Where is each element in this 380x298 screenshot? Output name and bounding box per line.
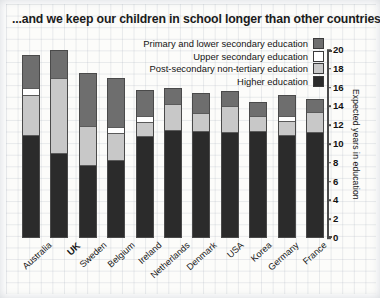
y-axis-tick: 8	[327, 158, 338, 168]
y-axis-tick-label: 0	[333, 233, 338, 243]
y-axis-tick-label: 18	[333, 64, 344, 74]
stacked-bar	[79, 73, 97, 238]
stacked-bar	[50, 50, 68, 238]
bar-segment	[51, 153, 67, 237]
x-axis-label-australia: Australia	[21, 240, 54, 271]
bar-segment	[137, 122, 153, 136]
y-axis-tick-mark	[327, 181, 331, 183]
bar-segment	[222, 92, 238, 106]
plot-area	[22, 50, 324, 238]
bar-segment	[250, 103, 266, 116]
y-axis-tick-mark	[327, 87, 331, 89]
stacked-bar	[22, 55, 40, 238]
y-axis-tick: 16	[327, 83, 344, 93]
bar-segment	[193, 131, 209, 237]
bar-column	[278, 50, 296, 238]
stacked-bar	[192, 93, 210, 238]
bar-segment	[108, 133, 124, 160]
bar-segment	[80, 165, 96, 237]
bar-segment	[165, 89, 181, 105]
bar-segment	[165, 130, 181, 237]
bar-segment	[193, 94, 209, 113]
y-axis-tick-label: 8	[333, 158, 338, 168]
y-axis-title-text: Expected years in education	[351, 89, 361, 200]
bar-column	[306, 50, 324, 238]
bar-segment	[23, 95, 39, 135]
y-axis-tick-label: 10	[333, 139, 344, 149]
stacked-bar	[306, 99, 324, 238]
bar-group	[22, 50, 324, 238]
bar-segment	[137, 136, 153, 237]
bar-segment	[108, 79, 124, 126]
stacked-bar	[164, 88, 182, 238]
legend-item-label: Primary and lower secondary education	[143, 39, 308, 48]
y-axis-tick-mark	[327, 200, 331, 202]
y-axis-tick: 2	[327, 214, 338, 224]
y-axis-tick-mark	[327, 218, 331, 220]
bar-segment	[51, 78, 67, 153]
bar-segment	[193, 113, 209, 132]
bar-segment	[108, 160, 124, 237]
y-axis-tick-mark	[327, 143, 331, 145]
y-axis-tick: 6	[327, 177, 338, 187]
bar-column	[249, 50, 267, 238]
x-axis-category-labels: AustraliaUKSwedenBelgiumIrelandNetherlan…	[22, 240, 324, 296]
y-axis-tick-label: 12	[333, 120, 344, 130]
bar-segment	[165, 104, 181, 130]
y-axis-tick-label: 20	[333, 45, 344, 55]
y-axis-tick-mark	[327, 237, 331, 239]
bar-segment	[23, 56, 39, 89]
y-axis-tick-mark	[327, 162, 331, 164]
bar-column	[22, 50, 40, 238]
y-axis-tick-label: 4	[333, 196, 338, 206]
bar-segment	[250, 131, 266, 237]
y-axis-title: Expected years in education	[349, 50, 363, 238]
y-axis-tick: 14	[327, 102, 344, 112]
bar-segment	[137, 91, 153, 115]
stacked-bar	[136, 90, 154, 238]
y-axis-tick-label: 6	[333, 177, 338, 187]
bar-segment	[307, 100, 323, 112]
bar-segment	[279, 96, 295, 115]
y-axis-tick-mark	[327, 49, 331, 51]
bar-segment	[80, 126, 96, 165]
bar-column	[164, 50, 182, 238]
bar-column	[50, 50, 68, 238]
y-axis: 20181614121086420	[324, 50, 350, 238]
y-axis-tick-mark	[327, 68, 331, 70]
y-axis-tick-label: 16	[333, 83, 344, 93]
stacked-bar	[278, 95, 296, 238]
x-axis-label-belgium: Belgium	[105, 240, 136, 269]
bar-segment	[279, 121, 295, 135]
legend-swatch-primary	[313, 38, 324, 49]
y-axis-tick: 0	[327, 233, 338, 243]
stacked-bar	[107, 78, 125, 238]
y-axis-tick-label: 2	[333, 214, 338, 224]
y-axis-tick-label: 14	[333, 102, 344, 112]
legend-item-primary: Primary and lower secondary education	[143, 38, 324, 50]
bar-segment	[23, 135, 39, 237]
bar-column	[192, 50, 210, 238]
bar-segment	[279, 135, 295, 237]
stacked-bar	[249, 102, 267, 238]
bar-column	[79, 50, 97, 238]
bar-column	[136, 50, 154, 238]
bar-segment	[307, 132, 323, 237]
bar-segment	[222, 132, 238, 237]
bar-segment	[307, 112, 323, 132]
x-axis-label-usa: USA	[226, 240, 247, 260]
y-axis-tick-mark	[327, 124, 331, 126]
chart-screenshot: ...and we keep our children in school lo…	[0, 0, 380, 298]
x-axis-label-sweden: Sweden	[78, 240, 109, 269]
y-axis-tick: 4	[327, 196, 338, 206]
y-axis-tick: 18	[327, 64, 344, 74]
y-axis-tick: 10	[327, 139, 344, 149]
y-axis-tick: 12	[327, 120, 344, 130]
bar-column	[221, 50, 239, 238]
x-axis-label-uk: UK	[64, 240, 82, 257]
bar-segment	[222, 106, 238, 132]
bar-segment	[51, 51, 67, 78]
y-axis-tick: 20	[327, 45, 344, 55]
stacked-bar	[221, 91, 239, 238]
chart-title: ...and we keep our children in school lo…	[12, 12, 372, 26]
